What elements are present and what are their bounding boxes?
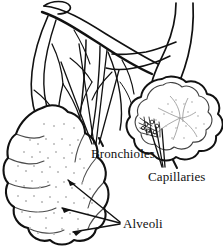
capillaries-pointer-tick	[173, 160, 177, 168]
label-bronchioles: Bronchioles	[91, 147, 155, 160]
lung-diagram	[0, 0, 223, 248]
label-alveoli: Alveoli	[123, 217, 163, 230]
label-capillaries: Capillaries	[148, 170, 205, 183]
anatomy-figure: Bronchioles Capillaries Alveoli	[0, 0, 223, 248]
